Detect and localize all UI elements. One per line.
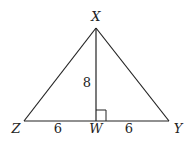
triangle-diagram: X Z W Y 8 6 6 [0, 0, 191, 141]
right-angle-marker [96, 110, 106, 121]
vertex-label-y: Y [174, 121, 184, 136]
length-label-xw: 8 [83, 75, 91, 90]
length-label-zw: 6 [54, 121, 62, 136]
diagram-svg: X Z W Y 8 6 6 [0, 0, 191, 141]
vertex-label-x: X [90, 9, 101, 24]
vertex-label-w: W [89, 121, 104, 136]
vertex-label-z: Z [10, 121, 21, 136]
length-label-wy: 6 [125, 121, 133, 136]
side-xy [96, 28, 169, 121]
